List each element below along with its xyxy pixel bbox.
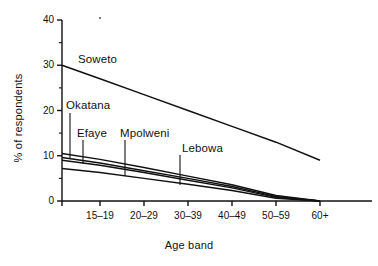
y-axis-title: % of respondents	[12, 58, 24, 178]
series-label-soweto: Soweto	[78, 53, 117, 65]
chart-figure: % of respondents Age band 010203040 15–1…	[0, 0, 378, 266]
y-tick-label: 30	[30, 59, 54, 70]
x-axis-ticks	[62, 201, 320, 206]
y-tick-label: 40	[30, 14, 54, 25]
stray-mark	[99, 17, 101, 19]
series-label-efaye: Efaye	[77, 127, 107, 139]
y-tick-label: 10	[30, 150, 54, 161]
y-axis-ticks	[57, 20, 62, 201]
series-line-mpolweni	[62, 160, 320, 201]
plot-area	[0, 0, 378, 266]
y-tick-label: 20	[30, 105, 54, 116]
x-axis-title: Age band	[0, 239, 378, 251]
series-label-lebowa: Lebowa	[182, 142, 223, 154]
series-label-mpolweni: Mpolweni	[120, 127, 169, 139]
series-line-efaye	[62, 158, 320, 201]
series-line-okatana	[62, 153, 320, 201]
x-tick-label: 60+	[294, 210, 346, 221]
series-label-okatana: Okatana	[66, 99, 110, 111]
y-tick-label: 0	[30, 195, 54, 206]
